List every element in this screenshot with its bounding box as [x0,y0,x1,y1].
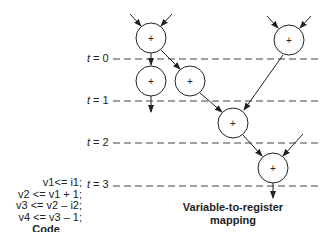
edge-input-a2 [161,14,172,26]
edge-c-e [200,93,222,112]
code-block: v1<= i1; v2 <= v1 + 1; v3 <= v2 – i2; v4… [2,177,82,223]
time-label-1: t = 1 [87,94,109,106]
code-line-3: v3 <= v2 – i2; [2,200,82,212]
edge-input-d2 [300,16,311,28]
edge-d-e [244,55,283,110]
node-b: + [136,66,166,96]
node-e: + [218,108,248,138]
plus-operator-label: + [148,76,154,87]
time-label-3: t = 3 [87,178,109,190]
plus-operator-label: + [148,33,154,44]
code-line-1: v1<= i1; [2,177,82,189]
code-caption: Code [10,223,82,232]
edge-input-f [283,134,303,156]
node-f: + [258,153,288,183]
plus-operator-label: + [286,35,292,46]
nodes: ++++++ [136,23,304,183]
plus-operator-label: + [187,76,193,87]
plus-operator-label: + [270,163,276,174]
node-a: + [136,23,166,53]
edge-input-a1 [130,14,141,26]
time-label-2: t = 2 [87,136,109,148]
mapping-caption-line1: Variable-to-register [168,201,298,214]
code-line-4: v4 <= v3 – 1; [2,212,82,224]
edge-e-f [243,135,262,156]
node-d: + [274,25,304,55]
plus-operator-label: + [230,118,236,129]
edge-input-d1 [267,16,278,28]
node-c: + [175,66,205,96]
time-label-0: t = 0 [87,52,109,64]
mapping-caption-line2: mapping [168,214,298,227]
mapping-caption: Variable-to-register mapping [168,201,298,227]
